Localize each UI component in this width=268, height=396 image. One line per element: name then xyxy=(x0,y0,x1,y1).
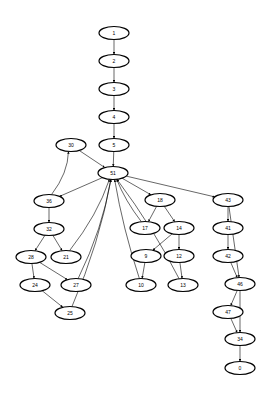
node-label: 32 xyxy=(46,226,52,232)
graph-node: 24 xyxy=(20,279,50,292)
node-label: 1 xyxy=(113,30,116,36)
graph-node: 30 xyxy=(56,139,86,152)
node-label: 17 xyxy=(142,225,148,231)
graph-node: 17 xyxy=(130,222,160,235)
node-label: 34 xyxy=(237,336,243,342)
graph-node: 4 xyxy=(99,111,129,124)
node-label: 10 xyxy=(138,282,144,288)
nodes-layer: 1234530513632282124272518171491210134341… xyxy=(16,27,255,375)
graph-node: 36 xyxy=(34,195,64,208)
node-label: 18 xyxy=(157,197,163,203)
graph-node: 1 xyxy=(99,27,129,40)
node-label: 4 xyxy=(113,114,116,120)
edge-27-51 xyxy=(78,179,111,278)
graph-node: 13 xyxy=(168,279,198,292)
node-label: 14 xyxy=(176,225,182,231)
node-label: 30 xyxy=(68,142,74,148)
graph-node: 9 xyxy=(131,250,161,263)
node-label: 43 xyxy=(225,197,231,203)
edge-51-36 xyxy=(60,178,103,197)
graph-node: 10 xyxy=(126,279,156,292)
graph-node: 41 xyxy=(213,222,243,235)
graph-node: 51 xyxy=(98,167,128,180)
edge-32-28 xyxy=(35,235,45,250)
graph-node: 18 xyxy=(145,194,175,207)
node-label: 0 xyxy=(239,365,242,371)
node-label: 47 xyxy=(225,309,231,315)
node-label: 2 xyxy=(113,58,116,64)
node-label: 13 xyxy=(180,282,186,288)
graph-node: 47 xyxy=(213,306,243,319)
graph-node: 25 xyxy=(55,307,85,320)
edge-12-13 xyxy=(180,262,182,278)
node-label: 46 xyxy=(237,281,243,287)
node-label: 12 xyxy=(176,253,182,259)
edge-24-25 xyxy=(42,291,63,308)
edge-32-21 xyxy=(53,235,62,250)
graph-node: 14 xyxy=(164,222,194,235)
graph-node: 2 xyxy=(99,55,129,68)
edge-42-46 xyxy=(231,262,238,277)
graph-node: 46 xyxy=(225,278,255,291)
graph-node: 21 xyxy=(51,251,81,264)
edge-18-17 xyxy=(148,206,156,221)
edge-28-27 xyxy=(40,262,68,279)
node-label: 36 xyxy=(46,198,52,204)
node-label: 27 xyxy=(73,282,79,288)
directed-graph: 1234530513632282124272518171491210134341… xyxy=(0,0,268,396)
node-label: 42 xyxy=(225,253,231,259)
edge-9-10 xyxy=(142,262,145,278)
graph-node: 0 xyxy=(225,362,255,375)
edge-36-30 xyxy=(52,151,69,194)
edge-47-34 xyxy=(231,318,237,332)
node-label: 9 xyxy=(145,253,148,259)
graph-node: 3 xyxy=(99,83,129,96)
edge-30-51 xyxy=(79,150,105,167)
node-label: 5 xyxy=(113,142,116,148)
graph-node: 5 xyxy=(99,139,129,152)
edge-51-43 xyxy=(126,176,215,197)
edge-18-14 xyxy=(164,206,175,222)
graph-node: 27 xyxy=(61,279,91,292)
node-label: 24 xyxy=(32,282,38,288)
node-label: 25 xyxy=(67,310,73,316)
node-label: 51 xyxy=(110,170,116,176)
graph-node: 43 xyxy=(213,194,243,207)
node-label: 41 xyxy=(225,225,231,231)
graph-node: 28 xyxy=(16,251,46,264)
edge-46-47 xyxy=(231,290,238,305)
node-label: 3 xyxy=(113,86,116,92)
edge-5-51 xyxy=(113,151,114,166)
graph-node: 34 xyxy=(225,333,255,346)
graph-node: 32 xyxy=(34,223,64,236)
node-label: 21 xyxy=(63,254,69,260)
edge-43-46 xyxy=(229,206,239,277)
edge-28-24 xyxy=(32,263,34,278)
graph-node: 12 xyxy=(164,250,194,263)
edge-17-51 xyxy=(117,179,142,221)
node-label: 28 xyxy=(28,254,34,260)
graph-node: 42 xyxy=(213,250,243,263)
